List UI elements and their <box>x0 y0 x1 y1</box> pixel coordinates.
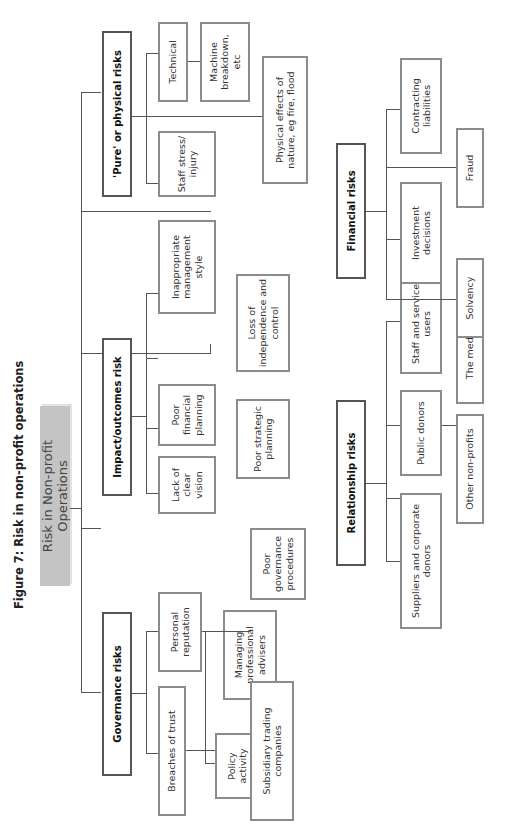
node-fraud: Fraud <box>456 128 484 208</box>
node-technical: Technical <box>158 22 188 102</box>
connector <box>81 211 211 212</box>
connector <box>146 358 158 359</box>
connector <box>366 211 386 212</box>
node-inappropriate-management-style: Inappropriate management style <box>158 220 216 314</box>
node-solvency: Solvency <box>456 258 484 338</box>
connector <box>132 116 146 117</box>
connector <box>132 416 146 417</box>
node-breaches-of-trust: Breaches of trust <box>158 686 186 816</box>
connector <box>210 344 211 354</box>
figure-title: Figure 7: Risk in non-profit operations <box>12 361 26 609</box>
connector <box>366 483 386 484</box>
risk-diagram: Figure 7: Risk in non-profit operations … <box>0 0 507 824</box>
connector <box>386 322 387 562</box>
connector <box>188 61 200 62</box>
category-financial: Financial risks <box>336 143 366 279</box>
node-contracting-liabilities: Contracting liabilities <box>400 58 442 154</box>
connector <box>81 692 101 693</box>
connector <box>81 92 101 93</box>
connector <box>146 293 158 294</box>
node-physical-effects-of-nature: Physical effects of nature, eg fire, flo… <box>262 56 308 184</box>
connector <box>386 299 456 300</box>
connector <box>146 753 158 754</box>
node-investment-decisions: Investment decisions <box>400 182 442 284</box>
connector <box>186 750 206 751</box>
node-subsidiary-trading-companies: Subsidiary trading companies <box>250 681 294 821</box>
connector <box>146 632 147 754</box>
node-public-donors: Public donors <box>400 390 442 476</box>
category-governance: Governance risks <box>102 612 132 776</box>
node-staff-service-users: Staff and service users <box>400 274 442 374</box>
connector <box>205 632 206 764</box>
connector <box>386 239 400 240</box>
node-other-non-profits: Other non-profits <box>456 414 484 524</box>
category-relationship: Relationship risks <box>336 400 366 566</box>
connector <box>81 528 101 529</box>
node-poor-strategic-planning: Poor strategic planning <box>236 399 290 479</box>
connector <box>146 183 158 184</box>
connector <box>386 109 400 110</box>
connector <box>386 167 456 168</box>
connector <box>146 428 158 429</box>
root-node: Risk in Non-profit Operations <box>40 406 70 586</box>
connector <box>146 116 262 117</box>
category-impact: Impact/outcomes risk <box>102 338 132 496</box>
connector <box>146 53 158 54</box>
node-lack-of-clear-vision: Lack of clear vision <box>158 456 216 514</box>
category-pure-physical: 'Pure' or physical risks <box>102 31 132 197</box>
node-poor-governance-procedures: Poor governance procedures <box>250 528 306 600</box>
node-loss-of-independence: Loss of independence and control <box>236 274 290 372</box>
connector <box>81 93 82 693</box>
node-machine-breakdown: Machine breakdown, etc <box>200 22 250 102</box>
node-suppliers-corporate-donors: Suppliers and corporate donors <box>400 493 442 629</box>
connector <box>146 631 158 632</box>
node-staff-stress-injury: Staff stress/ injury <box>158 131 216 197</box>
connector <box>146 493 158 494</box>
connector <box>386 498 400 499</box>
connector <box>146 54 147 184</box>
connector <box>205 763 215 764</box>
node-poor-financial-planning: Poor financial planning <box>158 384 216 446</box>
connector <box>386 321 400 322</box>
connector <box>202 631 250 632</box>
connector <box>386 110 387 300</box>
connector <box>386 561 400 562</box>
connector <box>132 693 146 694</box>
connector <box>146 294 147 494</box>
node-personal-reputation: Personal reputation <box>158 592 202 672</box>
